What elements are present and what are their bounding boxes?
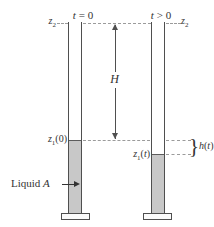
liquid-a-arrowhead-icon: [74, 181, 80, 187]
height-symbol: H: [110, 72, 119, 86]
tube-base-right: [143, 213, 172, 220]
z1-initial-label: z1(0): [34, 133, 67, 145]
tube-right: [151, 22, 165, 213]
z2-level-dash-right: [166, 23, 181, 24]
time-initial-label: t = 0: [64, 9, 102, 22]
z2-level-dash-left: [57, 23, 68, 24]
z2-label-right: z2: [181, 15, 188, 27]
arrow-down-icon: [112, 133, 118, 139]
liquid-column-diagram: H t = 0 t > 0 z2 z2 z1(0) z1(t) } h(t) L…: [0, 0, 214, 227]
height-label: H: [106, 72, 123, 88]
arrow-up-icon: [112, 24, 118, 30]
liquid-a-label: Liquid A: [11, 177, 50, 190]
liquid-column-right: [152, 154, 164, 213]
z1-current-level-dash-extension: [166, 154, 191, 155]
z1-current-label: z1(t): [117, 148, 150, 160]
liquid-column-left: [69, 140, 81, 213]
z1-initial-level-dash: [83, 140, 150, 141]
z2-label-left: z2: [38, 15, 56, 27]
h-t-brace: }: [189, 135, 199, 157]
h-t-label: h(t): [199, 140, 213, 152]
tube-base-left: [61, 213, 90, 220]
z1-initial-level-dash-extension: [166, 140, 191, 141]
time-later-label: t > 0: [142, 9, 180, 22]
